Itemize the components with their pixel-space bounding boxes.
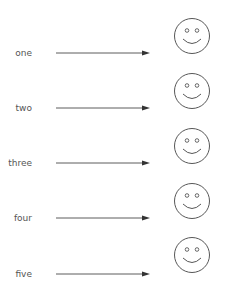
row-label: one [15,48,32,58]
row-four: four [0,182,225,237]
arrow-right-icon [56,104,150,112]
row-three: three [0,127,225,182]
arrow-right-icon [56,214,150,222]
smiley-face-icon [173,236,211,274]
row-one: one [0,17,225,72]
row-label: five [15,269,32,279]
smiley-face-icon [173,127,211,165]
arrow-right-icon [56,270,150,278]
arrow-right-icon [56,159,150,167]
row-five: five [0,236,225,291]
smiley-face-icon [173,182,211,220]
row-two: two [0,72,225,127]
row-label: three [8,158,32,168]
arrow-right-icon [56,49,150,57]
row-label: two [16,103,32,113]
smiley-face-icon [173,17,211,55]
row-label: four [14,213,32,223]
smiley-face-icon [173,72,211,110]
